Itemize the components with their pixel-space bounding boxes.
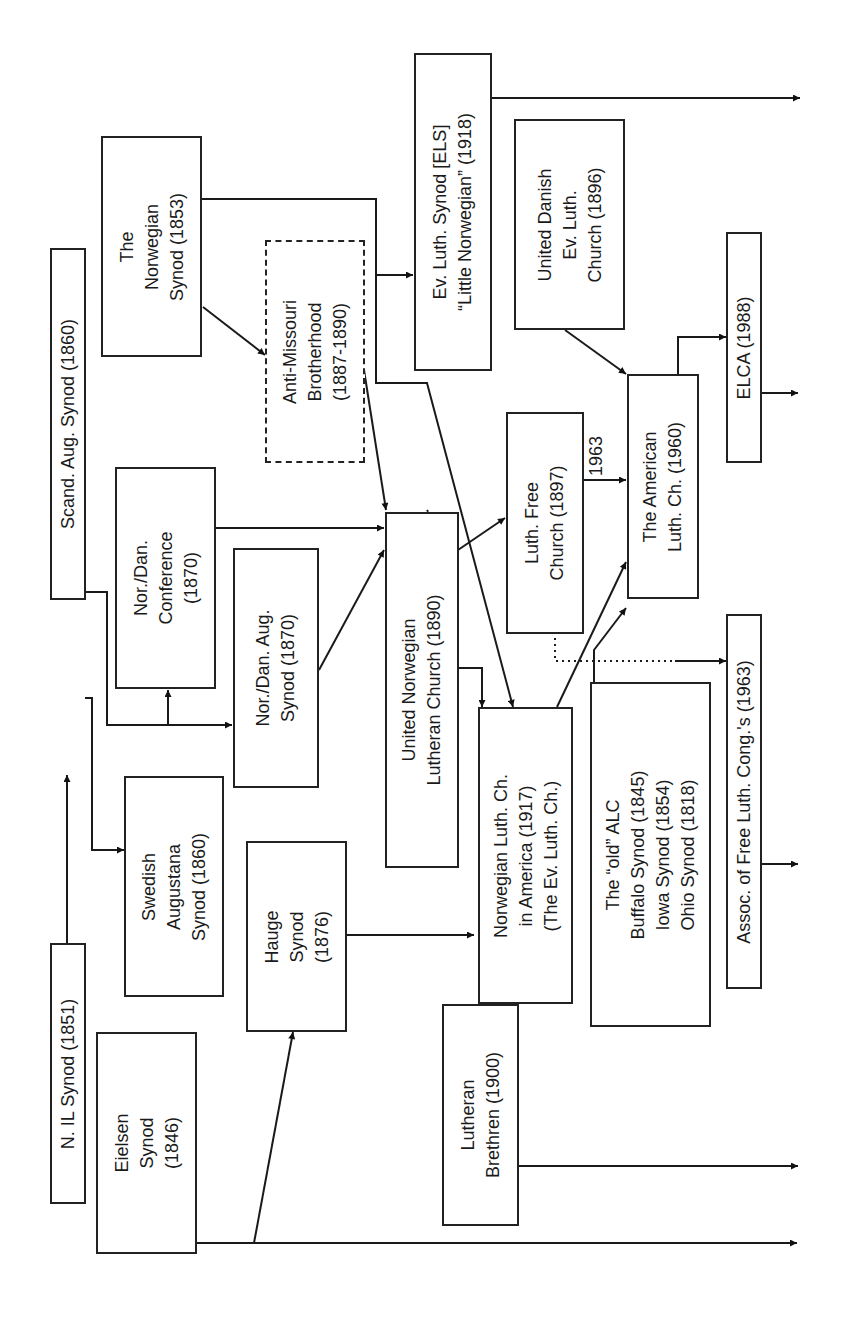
node-label: The Norwegian Synod (1853) (114, 192, 189, 300)
node-swedish-augustana: Swedish Augustana Synod (1860) (124, 776, 224, 997)
node-united-danish: United Danish Ev. Luth. Church (1896) (514, 119, 625, 330)
node-label: Luth. Free Church (1897) (520, 465, 570, 580)
node-label: Hauge Synod (1876) (259, 910, 334, 963)
node-label: N. IL Synod (1851) (56, 998, 81, 1148)
node-n-il-synod: N. IL Synod (1851) (50, 943, 86, 1204)
node-label: Anti-Missouri Brotherhood (1887-1890) (278, 299, 353, 403)
node-old-alc: The “old” ALC Buffalo Synod (1845) Iowa … (590, 682, 711, 1027)
node-hauge-synod: Hauge Synod (1876) (246, 841, 347, 1032)
node-label: United Norwegian Lutheran Church (1890) (397, 594, 447, 785)
node-luth-free-church: Luth. Free Church (1897) (506, 412, 584, 634)
node-norwegian-luth-america: Norwegian Luth. Ch. in America (1917) (T… (478, 707, 573, 1004)
node-label: The American Luth. Ch. (1960) (638, 421, 688, 551)
node-label: United Danish Ev. Luth. Church (1896) (532, 167, 607, 282)
node-nor-dan-conference: Nor./Dan. Conference (1870) (115, 467, 216, 689)
node-aflc: Assoc. of Free Luth. Cong.'s (1963) (726, 614, 762, 989)
node-united-norwegian: United Norwegian Lutheran Church (1890) (385, 512, 459, 868)
node-nor-dan-aug-synod: Nor./Dan. Aug. Synod (1870) (233, 548, 319, 788)
node-label: Eielsen Synod (1846) (109, 1113, 184, 1172)
node-label: Norwegian Luth. Ch. in America (1917) (T… (488, 773, 563, 937)
node-norwegian-synod: The Norwegian Synod (1853) (101, 136, 202, 357)
node-label: ELCA (1988) (732, 296, 757, 399)
node-label: Scand. Aug. Synod (1860) (56, 319, 81, 529)
node-els: Ev. Luth. Synod [ELS] “Little Norwegian”… (414, 53, 492, 371)
node-label: Assoc. of Free Luth. Cong.'s (1963) (732, 660, 757, 944)
node-scand-aug-synod: Scand. Aug. Synod (1860) (50, 248, 86, 600)
node-american-luth: The American Luth. Ch. (1960) (627, 374, 699, 599)
node-label: Swedish Augustana Synod (1860) (137, 832, 212, 940)
node-anti-missouri: Anti-Missouri Brotherhood (1887-1890) (265, 240, 365, 463)
node-label: Nor./Dan. Conference (1870) (128, 531, 203, 624)
node-label: The “old” ALC Buffalo Synod (1845) Iowa … (601, 770, 701, 939)
node-eielsen-synod: Eielsen Synod (1846) (96, 1032, 197, 1254)
node-label: Lutheran Brethren (1900) (456, 1052, 506, 1178)
node-label: Ev. Luth. Synod [ELS] “Little Norwegian”… (428, 113, 478, 311)
node-label: Nor./Dan. Aug. Synod (1870) (251, 609, 301, 726)
node-lutheran-brethren: Lutheran Brethren (1900) (442, 1004, 519, 1226)
annotation-year-1963: 1963 (586, 436, 607, 476)
node-elca: ELCA (1988) (726, 232, 762, 463)
